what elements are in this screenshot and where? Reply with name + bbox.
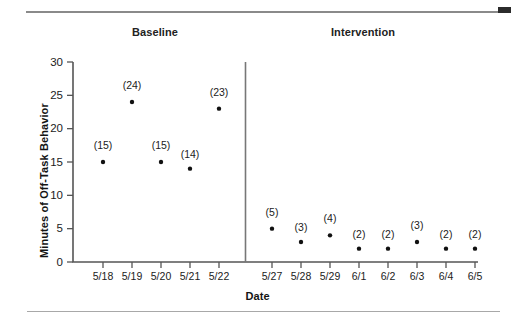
data-point-label: (2) <box>353 228 366 240</box>
x-tick-label: 5/27 <box>262 270 283 282</box>
data-point <box>386 246 390 250</box>
data-point <box>444 246 448 250</box>
scatter-plot: 051015202530 5/185/195/205/215/225/275/2… <box>0 0 515 324</box>
x-tick-label: 5/18 <box>93 270 114 282</box>
x-tick-label: 5/21 <box>180 270 201 282</box>
y-axis-title: Minutes of Off-Task Behavior <box>38 103 50 258</box>
data-point-label: (5) <box>266 206 279 218</box>
data-point <box>130 100 134 104</box>
data-point <box>415 240 419 244</box>
data-point <box>217 106 221 110</box>
figure-container: Baseline Intervention 051015202530 5/185… <box>0 0 515 324</box>
data-point-label: (15) <box>152 139 171 151</box>
data-point-label: (15) <box>94 139 113 151</box>
x-tick-label: 5/19 <box>122 270 143 282</box>
data-point-label: (3) <box>295 221 308 233</box>
data-point <box>270 226 274 230</box>
data-point-label: (2) <box>469 228 482 240</box>
bottom-divider-rule <box>27 311 500 312</box>
y-tick-label: 20 <box>50 122 63 134</box>
x-tick-label: 6/3 <box>410 270 425 282</box>
x-tick-label: 5/29 <box>320 270 341 282</box>
data-point-label: (14) <box>181 148 200 160</box>
x-tick-label: 6/4 <box>439 270 454 282</box>
x-tick-label: 5/20 <box>151 270 172 282</box>
data-point-label: (2) <box>440 228 453 240</box>
data-point-labels: (15)(24)(15)(14)(23)(5)(3)(4)(2)(2)(3)(2… <box>94 79 482 240</box>
data-point <box>188 166 192 170</box>
y-tick-label: 0 <box>57 256 63 268</box>
x-tick-label: 6/5 <box>468 270 483 282</box>
x-axis-title: Date <box>0 290 515 302</box>
data-point <box>357 246 361 250</box>
x-tick-label: 6/1 <box>352 270 367 282</box>
data-point <box>101 160 105 164</box>
x-tick-label: 6/2 <box>381 270 396 282</box>
data-point-label: (24) <box>123 79 142 91</box>
data-point <box>473 246 477 250</box>
y-axis-ticks: 051015202530 <box>50 56 73 268</box>
data-point-label: (2) <box>382 228 395 240</box>
x-tick-label: 5/22 <box>209 270 230 282</box>
data-point <box>299 240 303 244</box>
y-tick-label: 30 <box>50 56 63 68</box>
data-point <box>328 233 332 237</box>
x-axis-ticks: 5/185/195/205/215/225/275/285/296/16/26/… <box>93 262 483 282</box>
data-point-label: (4) <box>324 212 337 224</box>
axis-lines <box>73 62 478 262</box>
y-tick-label: 10 <box>50 189 63 201</box>
y-tick-label: 15 <box>50 156 63 168</box>
y-tick-label: 5 <box>57 222 63 234</box>
data-point <box>159 160 163 164</box>
x-tick-label: 5/28 <box>291 270 312 282</box>
data-point-label: (3) <box>411 219 424 231</box>
data-point-label: (23) <box>210 86 229 98</box>
y-tick-label: 25 <box>50 89 63 101</box>
